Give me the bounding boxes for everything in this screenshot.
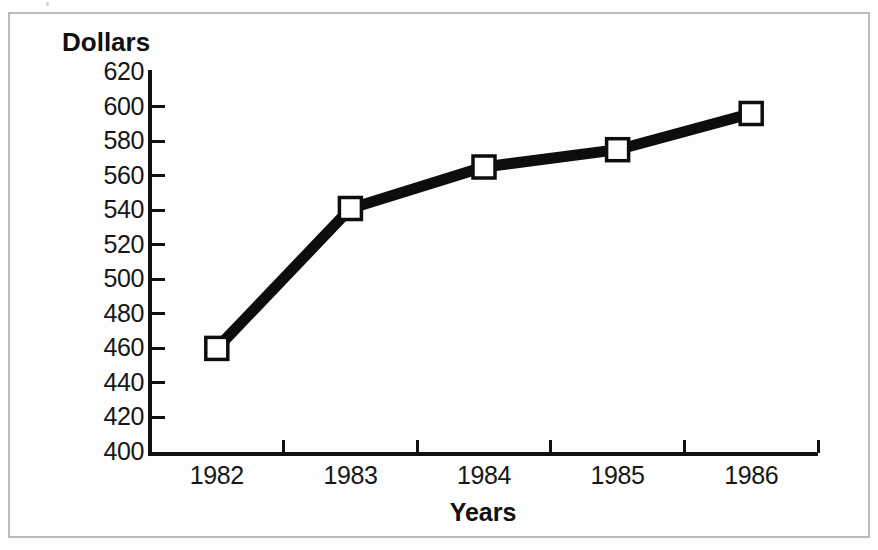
data-point-1986: [740, 103, 762, 125]
data-point-1983: [339, 198, 361, 220]
plot-series-layer: [0, 0, 878, 550]
data-point-1985: [607, 139, 629, 161]
chart-screenshot: Dollars 40042044046048050052054056058060…: [0, 0, 878, 550]
series-line-dollars: [217, 114, 751, 349]
data-point-1984: [473, 156, 495, 178]
line-chart: Dollars 40042044046048050052054056058060…: [0, 0, 878, 550]
series-markers-dollars: [206, 103, 762, 360]
x-axis-title: Years: [148, 498, 818, 527]
data-point-1982: [206, 337, 228, 359]
